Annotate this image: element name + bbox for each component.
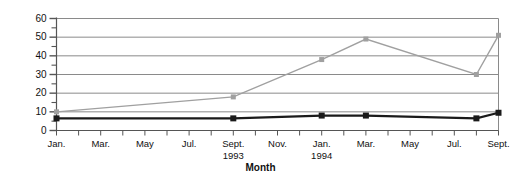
y-tick-label: 50 <box>21 31 47 42</box>
x-tick-label: May <box>120 138 170 149</box>
x-tick-label: Jan. <box>297 138 347 149</box>
x-tick-sublabel: 1994 <box>297 150 347 161</box>
x-tick-label: Nov. <box>253 138 303 149</box>
x-tick-label: Mar. <box>76 138 126 149</box>
data-point-drugs <box>319 57 324 62</box>
x-tick-label: Sept. <box>208 138 258 149</box>
data-point-drugs <box>496 33 501 38</box>
data-point-drugs <box>474 72 479 77</box>
x-tick-label: Sept. <box>474 138 521 149</box>
data-point-drugs <box>231 94 236 99</box>
y-tick-label: 30 <box>21 69 47 80</box>
chart-plot-area <box>0 0 521 176</box>
data-point-crime <box>54 115 60 121</box>
y-tick-label: 10 <box>21 106 47 117</box>
x-tick-label: Jan. <box>32 138 82 149</box>
y-tick-label: 20 <box>21 87 47 98</box>
y-tick-label: 60 <box>21 13 47 24</box>
x-tick-label: May <box>385 138 435 149</box>
series-line-crime <box>57 113 499 119</box>
data-point-crime <box>319 113 325 119</box>
y-tick-label: 0 <box>21 125 47 136</box>
data-point-drugs <box>363 37 368 42</box>
data-point-crime <box>363 113 369 119</box>
series-line-drugs <box>57 35 499 112</box>
x-tick-sublabel: 1993 <box>208 150 258 161</box>
data-point-crime <box>496 110 502 116</box>
chart-container: % "drugs" – % "crime" 0102030405060 Jan.… <box>0 0 521 176</box>
data-point-drugs <box>54 109 59 114</box>
x-tick-label: Jul. <box>164 138 214 149</box>
x-tick-label: Jul. <box>429 138 479 149</box>
data-point-crime <box>473 115 479 121</box>
y-tick-label: 40 <box>21 50 47 61</box>
x-tick-label: Mar. <box>341 138 391 149</box>
x-axis-title: Month <box>0 162 521 173</box>
data-point-crime <box>230 115 236 121</box>
